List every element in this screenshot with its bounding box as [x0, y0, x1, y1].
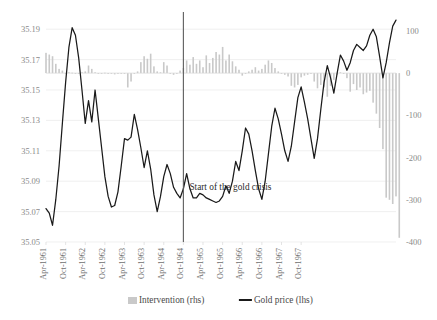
intervention-bar [228, 55, 230, 74]
chart-canvas: Start of the gold crisis 35.1935.1735.15… [0, 0, 437, 320]
x-axis-tick-label: Oct-1962 [98, 248, 107, 279]
intervention-bar [238, 70, 240, 73]
intervention-bar [199, 60, 201, 73]
intervention-bar [143, 56, 145, 73]
intervention-bar [297, 73, 299, 85]
intervention-bar [271, 63, 273, 73]
x-axis-tick-label: Apr-1962 [78, 248, 87, 280]
intervention-bar [212, 58, 214, 73]
intervention-bar [320, 73, 322, 85]
intervention-bar [186, 60, 188, 73]
intervention-bar [327, 73, 329, 97]
intervention-bar [192, 57, 194, 73]
x-axis-labels: Apr-1961Oct-1961Apr-1962Oct-1962Apr-1963… [39, 242, 303, 280]
intervention-bar [189, 65, 191, 73]
intervention-bar [150, 54, 152, 73]
intervention-bar [55, 64, 57, 73]
intervention-bar [333, 73, 335, 80]
intervention-bar [376, 73, 378, 114]
x-axis-tick-label: Oct-1965 [216, 248, 225, 279]
left-axis-tick-label: 35.13 [21, 115, 40, 125]
x-axis-tick-label: Oct-1961 [59, 248, 68, 279]
intervention-bar [395, 73, 397, 196]
x-axis-tick-label: Apr-1961 [39, 248, 48, 280]
intervention-bar [222, 47, 224, 73]
intervention-bar [313, 73, 315, 81]
intervention-bar [235, 66, 237, 73]
right-axis-tick-label: -100 [406, 110, 422, 120]
intervention-bar [45, 53, 47, 73]
x-axis-tick-label: Oct-1963 [137, 248, 146, 279]
intervention-bar [225, 60, 227, 73]
right-axis-tick-label: -400 [406, 237, 422, 247]
intervention-bar [294, 73, 296, 87]
intervention-bar [251, 70, 253, 73]
intervention-bar [202, 67, 204, 73]
left-axis-tick-label: 35.15 [21, 85, 40, 95]
gold-price-line [46, 20, 396, 225]
intervention-bar [232, 61, 234, 73]
intervention-bar [379, 73, 381, 128]
left-axis-tick-label: 35.05 [21, 237, 40, 247]
intervention-bar [359, 73, 361, 87]
intervention-bar [58, 69, 60, 73]
intervention-bar [349, 73, 351, 92]
intervention-bar [209, 63, 211, 73]
intervention-bar [147, 59, 149, 73]
intervention-bar [366, 73, 368, 92]
intervention-bar [255, 67, 257, 73]
right-axis-tick-label: -200 [406, 153, 422, 163]
x-axis-tick-label: Apr-1965 [196, 248, 205, 280]
right-axis-labels: 1000-100-200-300-400 [406, 26, 422, 247]
intervention-bar [163, 62, 165, 73]
intervention-bar [241, 73, 243, 76]
intervention-bar [52, 56, 54, 73]
right-axis-tick-label: -300 [406, 195, 422, 205]
intervention-bar [382, 73, 384, 149]
intervention-bar [219, 55, 221, 74]
left-axis-tick-label: 35.19 [21, 24, 40, 34]
intervention-bars [45, 47, 400, 238]
intervention-bar [88, 66, 90, 74]
intervention-bar [385, 73, 387, 198]
intervention-bar [258, 71, 260, 74]
x-axis-tick-label: Oct-1966 [255, 248, 264, 279]
x-axis-tick-label: Apr-1964 [157, 248, 166, 280]
intervention-bar [127, 73, 129, 87]
gold-crisis-marker: Start of the gold crisis [183, 12, 271, 242]
intervention-bar [291, 73, 293, 86]
legend-label: Intervention (rhs) [139, 295, 204, 306]
x-axis-tick-label: Apr-1963 [118, 248, 127, 280]
intervention-bar [264, 65, 266, 73]
intervention-bar [91, 69, 93, 73]
x-axis-tick-label: Oct-1964 [176, 248, 185, 279]
intervention-bar [346, 73, 348, 78]
chart-legend: Intervention (rhs)Gold price (lhs) [128, 295, 313, 306]
intervention-bar [300, 73, 302, 77]
intervention-bar [372, 73, 374, 103]
intervention-bar [166, 66, 168, 74]
intervention-bar [274, 68, 276, 73]
gold-price-polyline [46, 20, 396, 225]
legend-swatch-intervention [128, 297, 137, 304]
intervention-bar [398, 73, 400, 238]
left-axis-tick-label: 35.17 [21, 55, 40, 65]
right-axis-tick-label: 0 [406, 68, 410, 78]
intervention-bar [369, 73, 371, 91]
left-axis-tick-label: 35.07 [21, 207, 40, 217]
intervention-bar [392, 73, 394, 204]
intervention-bar [215, 52, 217, 73]
intervention-bar [48, 55, 50, 74]
right-axis-tick-label: 100 [406, 26, 419, 36]
intervention-bar [62, 71, 64, 74]
intervention-bar [317, 73, 319, 88]
intervention-bar [205, 55, 207, 73]
intervention-bar [153, 66, 155, 73]
intervention-bar [140, 62, 142, 73]
gold-price-intervention-chart: Start of the gold crisis 35.1935.1735.15… [0, 0, 437, 320]
intervention-bar [353, 73, 355, 84]
intervention-bar [287, 73, 289, 76]
intervention-bar [261, 69, 263, 73]
intervention-bar [196, 64, 198, 73]
x-axis-tick-label: Apr-1967 [275, 248, 284, 280]
